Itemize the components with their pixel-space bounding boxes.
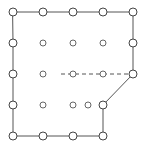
node-interior-r2-c1[interactable] [40, 71, 46, 77]
node-bottom-right-corner[interactable] [99, 132, 107, 140]
node-interior-r3-c3[interactable] [85, 102, 91, 108]
node-interior-r3-c1[interactable] [40, 102, 46, 108]
node-interior-r1-c2[interactable] [70, 40, 76, 46]
node-bottom-edge-1[interactable] [39, 132, 47, 140]
node-interior-r2-c2[interactable] [70, 71, 76, 77]
node-interior-r2-c3[interactable] [100, 71, 106, 77]
node-left-edge-3[interactable] [9, 101, 17, 109]
node-top-left-corner[interactable] [9, 8, 17, 16]
node-left-edge-2[interactable] [9, 70, 17, 78]
figure-root [0, 0, 144, 154]
node-bottom-edge-2[interactable] [69, 132, 77, 140]
node-left-edge-1[interactable] [9, 39, 17, 47]
node-interior-r1-c3[interactable] [100, 40, 106, 46]
node-top-right-corner[interactable] [129, 8, 137, 16]
node-cut-end[interactable] [99, 101, 107, 109]
node-top-edge-1[interactable] [39, 8, 47, 16]
node-top-edge-2[interactable] [69, 8, 77, 16]
node-bottom-left-corner[interactable] [9, 132, 17, 140]
node-interior-r3-c2[interactable] [70, 102, 76, 108]
node-interior-r1-c1[interactable] [40, 40, 46, 46]
mesh-diagram [0, 0, 144, 154]
node-right-edge-1[interactable] [129, 39, 137, 47]
node-right-cut-start[interactable] [129, 70, 137, 78]
node-top-edge-3[interactable] [99, 8, 107, 16]
